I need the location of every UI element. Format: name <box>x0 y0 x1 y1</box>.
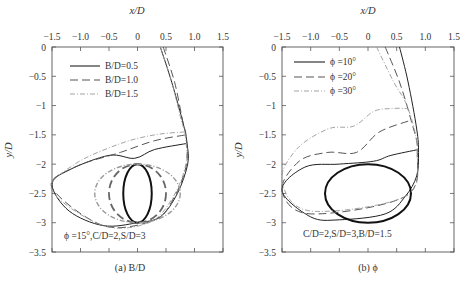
ytick-label: −3.5 <box>259 248 276 258</box>
panel-a-legend: B/D=0.5 B/D=1.0 B/D=1.5 <box>70 61 138 99</box>
ytick-label: −2.5 <box>259 189 276 199</box>
xtick-label: 1.5 <box>448 32 460 42</box>
panel-a-annotation: ϕ =15°,C/D=2,S/D=3 <box>64 231 146 241</box>
panel-a-xlabel: x/D <box>128 5 145 16</box>
ytick-label: −1.5 <box>259 130 276 140</box>
ytick-label: −3 <box>36 218 46 228</box>
legend-label-phi20: ϕ =20° <box>330 72 356 82</box>
panel-a-caption: (a) B/D <box>115 262 145 274</box>
xtick-label: −1.5 <box>43 32 60 42</box>
xtick-label: 0.5 <box>160 32 172 42</box>
figure: x/D y/D −1.5−1.0−0.500.51.01.5 0−0.5−1−1… <box>0 0 476 294</box>
ytick-label: −1 <box>36 101 46 111</box>
xtick-label: 0 <box>135 32 140 42</box>
panel-b-xtick-labels: −1.5−1.0−0.500.51.01.5 <box>273 32 460 42</box>
ytick-label: −2.5 <box>29 189 46 199</box>
legend-label-bd10: B/D=1.0 <box>105 75 138 85</box>
legend-label-phi30: ϕ =30° <box>330 86 356 96</box>
ytick-label: 0 <box>41 43 46 53</box>
xtick-label: 0.5 <box>391 32 403 42</box>
panel-a-plot: x/D y/D −1.5−1.0−0.500.51.01.5 0−0.5−1−1… <box>3 5 229 274</box>
ytick-label: −0.5 <box>259 72 276 82</box>
obstacle-ellipse <box>95 164 181 223</box>
ytick-label: −1 <box>266 101 276 111</box>
scour-envelope-curve <box>52 47 188 226</box>
obstacle-ellipse <box>109 164 166 223</box>
panel-a-xtick-labels: −1.5−1.0−0.500.51.01.5 <box>43 32 229 42</box>
ytick-label: −0.5 <box>29 72 46 82</box>
obstacle-ellipse <box>325 164 411 223</box>
xtick-label: −1.5 <box>273 32 290 42</box>
panel-b-caption: (b) ϕ <box>358 262 377 274</box>
panel-b-ylabel: y/D <box>233 142 244 159</box>
panel-b-axes-frame <box>282 47 454 252</box>
ytick-label: 0 <box>271 43 276 53</box>
xtick-label: −0.5 <box>100 32 117 42</box>
xtick-label: −1.0 <box>302 32 319 42</box>
panel-a-ytick-labels: 0−0.5−1−1.5−2−2.5−3−3.5 <box>29 43 46 258</box>
ytick-label: −3.5 <box>29 248 46 258</box>
xtick-label: 0 <box>366 32 371 42</box>
panel-b-legend: ϕ =10° ϕ =20° ϕ =30° <box>294 57 356 96</box>
xtick-label: −0.5 <box>331 32 348 42</box>
panel-b-ytick-labels: 0−0.5−1−1.5−2−2.5−3−3.5 <box>259 43 276 258</box>
ytick-label: −1.5 <box>29 130 46 140</box>
ytick-label: −2 <box>266 160 276 170</box>
panel-b-xlabel: x/D <box>359 5 376 16</box>
ytick-label: −2 <box>36 160 46 170</box>
obstacle-ellipse <box>123 164 152 223</box>
legend-label-bd15: B/D=1.5 <box>105 89 138 99</box>
legend-label-bd05: B/D=0.5 <box>105 61 138 71</box>
xtick-label: 1.5 <box>217 32 229 42</box>
legend-label-phi10: ϕ =10° <box>330 57 356 67</box>
panel-b-annotation: C/D=2,S/D=3,B/D=1.5 <box>303 229 392 239</box>
xtick-label: 1.0 <box>189 32 201 42</box>
xtick-label: 1.0 <box>419 32 431 42</box>
panel-b-plot: x/D y/D −1.5−1.0−0.500.51.01.5 0−0.5−1−1… <box>233 5 460 274</box>
xtick-label: −1.0 <box>72 32 89 42</box>
panel-b-tick-marks <box>282 47 454 252</box>
ytick-label: −3 <box>266 218 276 228</box>
panel-a-ylabel: y/D <box>3 142 14 159</box>
